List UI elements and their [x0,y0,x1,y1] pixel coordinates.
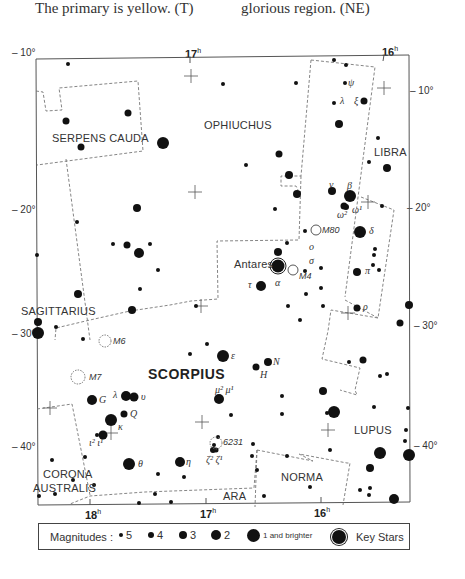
label-sagittarius: SAGITTARIUS [21,305,96,317]
label-kappa: κ [118,421,123,432]
legend-mag-3: 3 [179,529,196,541]
legend-title: Magnitudes : [50,531,113,543]
star-dot-icon [148,532,154,538]
label-omega2: ω² [337,209,347,220]
label-beta: β [347,180,352,191]
label-zeta: ζ² ζ¹ [206,454,223,465]
label-Q: Q [130,408,137,419]
label-lupus: LUPUS [354,424,392,436]
label-theta: θ [138,458,143,469]
label-antares: Antares [234,258,273,270]
label-lambda-oph: λ [340,95,344,106]
label-G: G [99,394,106,405]
label-psi: ψ [348,77,354,88]
label-norma: NORMA [281,471,323,483]
label-sigma: σ [309,255,314,266]
label-omega1: ω¹ [352,204,362,215]
label-omicron: o [309,241,314,252]
star-dot-icon [211,530,221,540]
label-corona: CORONA [43,468,92,480]
label-ophiuchus: OPHIUCHUS [204,119,272,131]
label-upsilon: υ [141,391,146,402]
label-alpha: α [275,277,280,288]
label-m80: M80 [322,225,340,235]
key-star-icon [332,530,346,544]
label-rho: ρ [363,301,368,312]
legend-mag-1: 1 and brighter [247,529,312,542]
label-H: H [260,369,267,380]
label-m6: M6 [113,336,126,346]
label-m4: M4 [299,271,312,281]
magnitude-legend: Magnitudes : 5 4 3 2 1 and brighter Key … [38,523,410,550]
legend-mag-5: 5 [119,529,132,541]
label-N: N [273,356,280,367]
star-dot-icon [119,533,123,537]
label-tau: τ [248,279,252,290]
legend-mag-4: 4 [148,529,163,541]
label-serpens-cauda: SERPENS CAUDA [52,132,149,144]
label-ngc6231: 6231 [223,437,243,447]
star-dot-icon [247,529,260,542]
label-australis: AUSTRALIS [33,482,96,494]
label-scorpius: SCORPIUS [148,366,225,382]
legend-key-stars: Key Stars [332,530,404,544]
label-pi: π [365,265,370,276]
label-nu: ν [329,179,333,190]
label-iota: ι² ι¹ [89,437,103,448]
open-clusters [71,335,222,449]
label-epsilon: ε [231,350,235,361]
label-delta: δ [369,225,374,236]
label-eta: η [186,456,191,467]
label-mu: μ² μ¹ [215,384,234,395]
label-m7: M7 [89,372,102,382]
legend-mag-2: 2 [211,529,230,541]
label-lambda: λ [113,389,117,400]
label-xi: ξ [354,95,358,106]
label-libra: LIBRA [374,146,407,158]
label-ara: ARA [223,490,246,502]
star-dot-icon [179,531,187,539]
